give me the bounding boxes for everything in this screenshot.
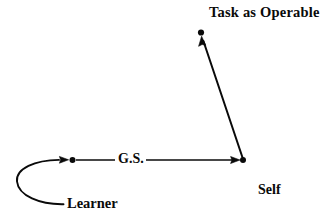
node-dot-learner <box>70 157 76 163</box>
edge-self-to-task <box>203 41 243 159</box>
arrowhead-to-self-node <box>231 157 240 164</box>
label-task-as-operable: Task as Operable <box>209 5 320 20</box>
label-gs: G.S. <box>116 152 146 166</box>
node-dot-task <box>198 29 204 35</box>
arrowhead-to-task-node <box>199 36 206 46</box>
diagram-canvas: Task as Operable G.S. Learner Self as Op… <box>0 0 328 220</box>
node-dot-self <box>240 157 246 163</box>
label-learner: Learner <box>67 196 118 211</box>
label-self-as-operant: Self as Operant <box>258 151 309 220</box>
label-self-line-1: Self <box>258 182 309 198</box>
arrowhead-to-learner-node <box>59 156 68 163</box>
edge-learner-curve <box>17 160 64 204</box>
